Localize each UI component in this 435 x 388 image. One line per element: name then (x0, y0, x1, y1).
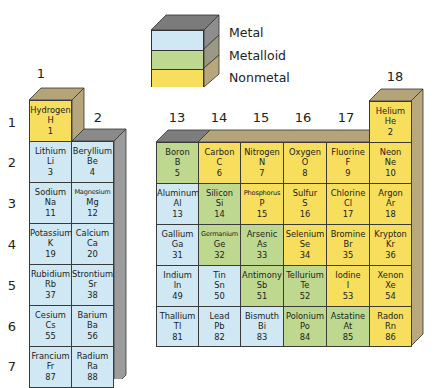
element-cell-As: ArsenicAs33 (240, 224, 284, 266)
element-cell-Ca: CalciumCa20 (71, 223, 114, 265)
legend-swatch-nonmetal (152, 70, 203, 87)
element-cell-Po: PoloniumPo84 (283, 306, 327, 347)
element-cell-Mg: MagnesiumMg12 (71, 182, 114, 224)
group-label-17: 17 (336, 110, 356, 125)
element-cell-O: OxygenO8 (283, 142, 327, 184)
element-cell-B: BoronB5 (156, 142, 199, 184)
element-cell-He: HeliumHe2 (369, 101, 412, 143)
element-cell-Kr: KryptonKr36 (369, 224, 412, 266)
element-cell-Pb: LeadPb82 (198, 306, 241, 347)
period-label-6: 6 (2, 319, 22, 334)
element-cell-Rb: RubidiumRb37 (29, 264, 72, 306)
element-cell-H: HydrogenH1 (29, 100, 72, 142)
element-cell-Sr: StrontiumSr38 (71, 264, 114, 306)
legend-label-metal: Metal (229, 25, 264, 40)
legend (151, 30, 204, 87)
element-cell-N: NitrogenN7 (240, 142, 284, 184)
group-label-13: 13 (167, 110, 187, 125)
group-label-15: 15 (251, 110, 271, 125)
element-cell-Li: LithiumLi3 (29, 141, 72, 183)
element-cell-I: IodineI53 (326, 265, 370, 307)
group-label-16: 16 (293, 110, 313, 125)
element-cell-Tl: ThalliumTl81 (156, 306, 199, 347)
element-cell-Ne: NeonNe10 (369, 142, 412, 184)
element-cell-Sb: AntimonySb51 (240, 265, 284, 307)
period-label-7: 7 (2, 359, 22, 374)
element-cell-Br: BromineBr35 (326, 224, 370, 266)
element-cell-Ar: ArgonAr18 (369, 183, 412, 225)
element-cell-Cl: ChlorineCl17 (326, 183, 370, 225)
group-label-1: 1 (31, 66, 51, 81)
element-cell-Be: BerylliumBe4 (71, 141, 114, 183)
legend-swatch-metalloid (152, 51, 203, 70)
element-cell-Ga: GalliumGa31 (156, 224, 199, 266)
element-cell-Fr: FranciumFr87 (29, 346, 72, 388)
element-cell-Rn: RadonRn86 (369, 306, 412, 347)
group-label-2: 2 (88, 110, 108, 125)
element-cell-K: PotassiumK19 (29, 223, 72, 265)
period-label-3: 3 (2, 196, 22, 211)
element-cell-Al: AluminumAl13 (156, 183, 199, 225)
element-cell-At: AstatineAt85 (326, 306, 370, 347)
element-cell-Cs: CesiumCs55 (29, 305, 72, 347)
element-cell-Bi: BismuthBi83 (240, 306, 284, 347)
period-label-5: 5 (2, 278, 22, 293)
element-cell-Si: SiliconSi14 (198, 183, 241, 225)
legend-label-nonmetal: Nonmetal (229, 70, 290, 85)
element-cell-Ra: RadiumRa88 (71, 346, 114, 388)
legend-swatch-metal (152, 31, 203, 51)
element-cell-In: IndiumIn49 (156, 265, 199, 307)
element-cell-S: SulfurS16 (283, 183, 327, 225)
group-label-14: 14 (209, 110, 229, 125)
element-cell-F: FluorineF9 (326, 142, 370, 184)
element-cell-Sn: TinSn50 (198, 265, 241, 307)
period-label-1: 1 (2, 115, 22, 130)
element-cell-Ge: GermaniumGe32 (198, 224, 241, 266)
element-cell-P: PhosphorusP15 (240, 183, 284, 225)
period-label-4: 4 (2, 237, 22, 252)
element-cell-Ba: BariumBa56 (71, 305, 114, 347)
element-cell-Te: TelluriumTe52 (283, 265, 327, 307)
element-cell-Na: SodiumNa11 (29, 182, 72, 224)
group-label-18: 18 (385, 69, 405, 84)
element-cell-Se: SeleniumSe34 (283, 224, 327, 266)
period-label-2: 2 (2, 155, 22, 170)
legend-label-metalloid: Metalloid (229, 48, 286, 63)
element-cell-Xe: XenonXe54 (369, 265, 412, 307)
element-cell-C: CarbonC6 (198, 142, 241, 184)
